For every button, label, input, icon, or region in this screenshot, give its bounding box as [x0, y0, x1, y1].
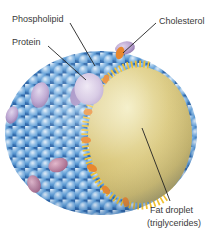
sphere-shading	[5, 51, 197, 215]
label-protein: Protein	[12, 37, 41, 47]
diagram-canvas: Phospholipid Protein Cholesterol Fat dro…	[0, 0, 222, 240]
label-cholesterol: Cholesterol	[159, 16, 205, 26]
label-phospholipid: Phospholipid	[12, 14, 64, 24]
leader-line-cholesterol	[123, 23, 156, 53]
label-fat-droplet-sub: (triglycerides)	[147, 218, 201, 228]
fat-cell-diagram: Phospholipid Protein Cholesterol Fat dro…	[0, 0, 222, 240]
label-fat-droplet: Fat droplet	[150, 205, 194, 215]
